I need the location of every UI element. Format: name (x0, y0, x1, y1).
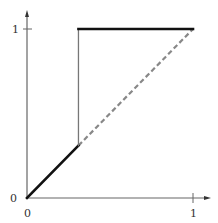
chart: 1 0 0 1 (0, 0, 218, 223)
y-tick-label-1: 1 (12, 24, 19, 35)
x-tick-label-1: 1 (190, 208, 197, 219)
series-step-segment (27, 146, 78, 198)
y-axis-arrow-icon (25, 10, 29, 17)
y-tick-label-0: 0 (10, 193, 17, 204)
plot-area (0, 0, 218, 223)
x-axis-arrow-icon (204, 196, 211, 200)
x-tick-label-0: 0 (24, 208, 31, 219)
series-diagonal-line (78, 29, 193, 146)
